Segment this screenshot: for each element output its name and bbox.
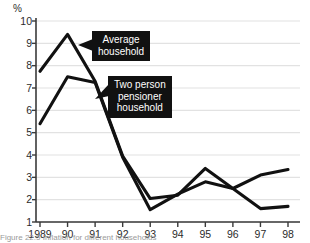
y-tick-label: 9 xyxy=(12,38,32,48)
y-tick-label: 2 xyxy=(12,194,32,204)
y-axis-unit-label: % xyxy=(13,3,22,14)
y-tick-label: 8 xyxy=(12,60,32,70)
y-tick-label: 3 xyxy=(12,172,32,182)
y-tick-label: 5 xyxy=(12,127,32,137)
callout-average-household: Average household xyxy=(92,31,150,61)
inflation-line-chart-figure: % 123456789101989909192939495969798 Aver… xyxy=(0,0,310,243)
chart-plot-area xyxy=(0,0,310,243)
y-tick-label: 1 xyxy=(12,217,32,227)
y-tick-label: 4 xyxy=(12,150,32,160)
y-tick-label: 7 xyxy=(12,83,32,93)
y-tick-label: 10 xyxy=(12,16,32,26)
callout-arrow-average-household xyxy=(78,39,93,51)
figure-caption: Figure 22.5 Inflation for different hous… xyxy=(0,233,310,243)
y-tick-label: 6 xyxy=(12,105,32,115)
callout-two-person-pensioner-household: Two person pensioner household xyxy=(108,76,172,118)
